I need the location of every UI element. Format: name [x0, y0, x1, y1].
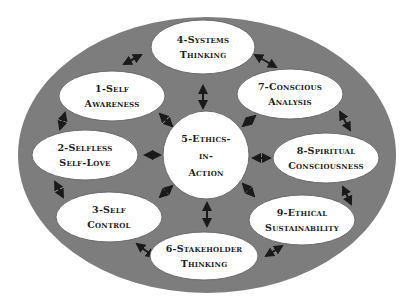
node-label-line: 7-Conscious: [258, 79, 322, 94]
node-label-line: Consciousness: [288, 158, 364, 173]
node-label-line: Analysis: [268, 94, 312, 109]
node-self-control: 3-Self Control: [57, 193, 161, 241]
node-stakeholder-thinking: 6-Stakeholder Thinking: [150, 232, 258, 280]
ethics-framework-diagram: 1-Self Awareness 2-Selfless Self-Love 3-…: [0, 0, 414, 308]
node-label-line: Awareness: [85, 96, 140, 111]
node-ethical-sustainability: 9-Ethical Sustainability: [249, 196, 355, 244]
node-label-line: 8-Spiritual: [297, 143, 356, 158]
node-label-line: Thinking: [181, 256, 228, 271]
node-label-line: 1-Self: [95, 81, 129, 96]
center-label-line: 5-Ethics-: [181, 130, 230, 147]
node-label-line: 9-Ethical: [277, 205, 328, 220]
node-label-line: Sustainability: [265, 220, 339, 235]
node-label-line: 2-Selfless: [58, 140, 113, 155]
node-spiritual-consciousness: 8-Spiritual Consciousness: [273, 134, 379, 182]
node-systems-thinking: 4-Systems Thinking: [151, 22, 255, 72]
center-label-line: Action: [188, 164, 223, 181]
node-label-line: 6-Stakeholder: [166, 241, 243, 256]
center-node-ethics-in-action: 5-Ethics- in- Action: [163, 111, 249, 199]
node-label-line: 3-Self: [92, 202, 126, 217]
node-conscious-analysis: 7-Conscious Analysis: [238, 70, 342, 118]
node-label-line: Thinking: [180, 47, 227, 62]
node-label-line: Control: [87, 217, 131, 232]
node-label-line: Self-Love: [59, 155, 110, 170]
center-label-line: in-: [199, 147, 213, 164]
node-selfless-self-love: 2-Selfless Self-Love: [33, 131, 137, 179]
node-label-line: 4-Systems: [177, 32, 230, 47]
node-self-awareness: 1-Self Awareness: [60, 72, 164, 120]
